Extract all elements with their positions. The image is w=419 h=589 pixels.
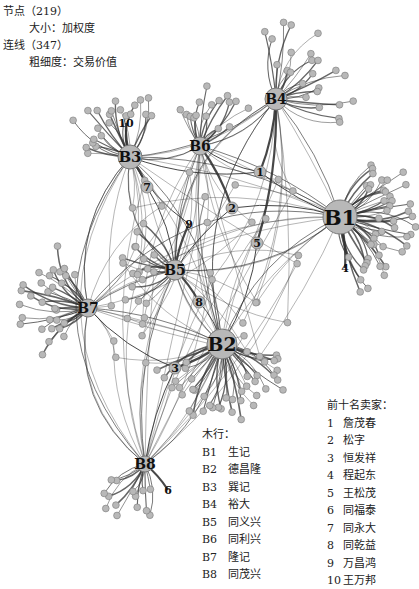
shared-seller-node (186, 169, 193, 176)
hub-label: B2 (208, 333, 237, 355)
hub-label: B7 (77, 300, 99, 316)
seller-node (399, 248, 406, 255)
seller-node (58, 280, 65, 287)
seller-node (381, 197, 388, 204)
shared-seller-node (232, 182, 239, 189)
shared-seller-node (139, 321, 146, 328)
seller-node (98, 132, 105, 139)
shared-seller-node (158, 203, 165, 210)
seller-node (333, 67, 340, 74)
seller-node (145, 95, 152, 102)
sellers-legend-row: 8同乾益 (327, 537, 393, 555)
seller-node (106, 119, 113, 126)
firm-hub-B3: B3 (118, 145, 142, 169)
seller-node (309, 57, 316, 64)
sellers-legend-row: 9万昌鸿 (327, 555, 393, 573)
seller-node (108, 477, 115, 484)
seller-node (409, 213, 416, 220)
shared-seller-node (110, 338, 117, 345)
seller-node (169, 384, 176, 391)
firms-legend-row: B8同茂兴 (202, 566, 261, 584)
seller-node (206, 402, 213, 409)
top-seller-label: 6 (164, 484, 172, 497)
sellers-legend-row: 2松字 (327, 432, 393, 450)
seller-node (70, 117, 77, 124)
shared-seller-node (256, 353, 263, 360)
shared-seller-node (294, 260, 301, 267)
sellers-name: 同福泰 (343, 504, 376, 517)
seller-node (216, 97, 223, 104)
seller-node (365, 285, 372, 292)
sellers-legend: 前十名卖家： 1詹茂春2松字3恒发祥4程起东5王松茂6同福泰7同永大8同乾益9万… (327, 397, 393, 589)
top-seller-3: 3 (169, 362, 181, 375)
firms-legend-row: B3巽记 (202, 479, 261, 497)
seller-node (384, 177, 391, 184)
hub-label: B3 (118, 148, 141, 166)
seller-node (336, 101, 343, 108)
seller-node (17, 321, 24, 328)
seller-node (46, 316, 53, 323)
firms-code: B4 (202, 496, 228, 514)
top-seller-2: 2 (226, 202, 238, 215)
top-seller-label: 2 (228, 202, 236, 215)
seller-node (102, 505, 109, 512)
sellers-code: 2 (327, 432, 343, 450)
sellers-legend-row: 5王松茂 (327, 485, 393, 503)
shared-seller-node (151, 269, 158, 276)
seller-node (381, 272, 388, 279)
trade-edge (88, 308, 222, 344)
seller-node (274, 61, 281, 68)
trade-edge (260, 217, 340, 356)
hub-label: B5 (164, 262, 186, 278)
seller-node (39, 299, 46, 306)
seller-node (233, 98, 240, 105)
seller-node (188, 376, 195, 383)
shared-seller-node (132, 243, 139, 250)
firms-legend-row: B4裕大 (202, 496, 261, 514)
seller-node (36, 269, 43, 276)
seller-node (39, 326, 46, 333)
seller-node (201, 393, 208, 400)
shared-seller-node (290, 188, 297, 195)
seller-node (336, 119, 343, 126)
sellers-name: 同永大 (343, 522, 376, 535)
seller-node (404, 233, 411, 240)
seller-node (384, 207, 391, 214)
sellers-name: 恒发祥 (343, 452, 376, 465)
seller-node (203, 113, 210, 120)
seller-node (54, 243, 61, 250)
firms-name: 巽记 (228, 481, 250, 494)
seller-node (315, 30, 322, 37)
seller-node (400, 169, 407, 176)
firms-legend: 木行： B1生记B2德昌隆B3巽记B4裕大B5同义兴B6同利兴B7隆记B8同茂兴 (202, 426, 261, 584)
seller-node (288, 22, 295, 29)
seller-node (357, 276, 364, 283)
trade-edge (84, 157, 130, 308)
seller-node (360, 267, 367, 274)
seller-node (137, 97, 144, 104)
top-seller-label: 5 (253, 237, 261, 250)
seller-node (299, 80, 306, 87)
firms-legend-row: B5同义兴 (202, 514, 261, 532)
seller-node (196, 99, 203, 106)
seller-node (154, 367, 161, 374)
firm-hub-B2: B2 (207, 329, 237, 359)
node-size-label: 大小：加权度 (3, 20, 117, 37)
firm-hub-B4: B4 (265, 88, 287, 110)
firms-legend-row: B2德昌隆 (202, 461, 261, 479)
firms-legend-title: 木行： (202, 426, 261, 444)
firm-hub-B8: B8 (134, 456, 156, 472)
shared-seller-node (108, 302, 115, 309)
top-seller-label: 4 (341, 262, 349, 275)
shared-seller-node (209, 276, 216, 283)
seller-node (50, 266, 57, 273)
seller-node (140, 256, 147, 263)
seller-node (143, 507, 150, 514)
seller-node (245, 105, 252, 112)
seller-node (135, 298, 142, 305)
sellers-legend-row: 1詹茂春 (327, 415, 393, 433)
seller-node (46, 272, 53, 279)
shared-seller-node (249, 219, 256, 226)
shared-seller-node (129, 205, 136, 212)
seller-node (39, 351, 46, 358)
